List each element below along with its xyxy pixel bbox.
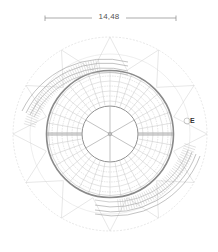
dimension-value: 14,48 (95, 12, 122, 21)
dimension-label: 14,48 (0, 12, 218, 21)
central-arena (82, 106, 138, 162)
circular-plan-drawing (0, 0, 218, 252)
marker-label: E (190, 117, 195, 124)
